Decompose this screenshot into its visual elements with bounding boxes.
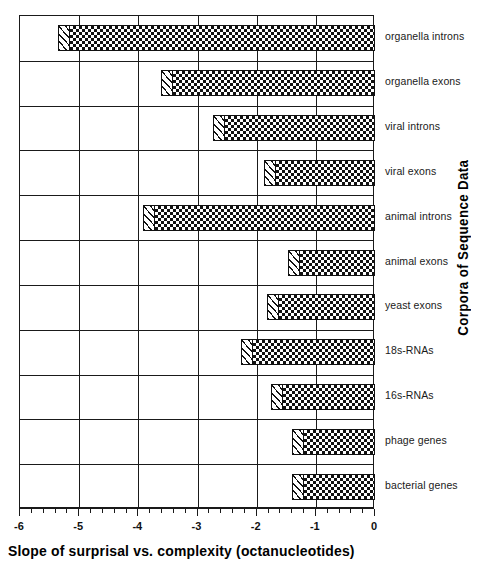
bar	[161, 70, 375, 96]
x-tick-minor	[114, 509, 115, 513]
x-tick-label: -4	[132, 520, 142, 532]
x-tick-label: -5	[73, 520, 83, 532]
y-axis-title: Corpora of Sequence Data	[455, 160, 471, 336]
x-tick-label: -1	[310, 520, 320, 532]
bar-body-segment	[225, 116, 374, 140]
bar-cap-segment	[293, 475, 304, 499]
x-tick-minor	[66, 509, 67, 513]
x-tick-label: -6	[14, 520, 24, 532]
bar-body-segment	[155, 206, 374, 230]
bar-cap-segment	[242, 340, 253, 364]
x-tick-minor	[31, 509, 32, 513]
gridline-horizontal	[20, 61, 373, 62]
category-label: organella exons	[385, 75, 461, 87]
category-label: 16s-RNAs	[385, 389, 434, 401]
x-tick-minor	[339, 509, 340, 513]
bar-cap-segment	[162, 71, 173, 95]
gridline-horizontal	[20, 464, 373, 465]
x-tick-major	[78, 509, 79, 516]
x-tick-minor	[291, 509, 292, 513]
x-tick-minor	[90, 509, 91, 513]
x-tick-major	[315, 509, 316, 516]
gridline-vertical	[79, 16, 80, 507]
bar	[288, 250, 375, 276]
bar-cap-segment	[59, 26, 70, 50]
bar-cap-segment	[289, 251, 300, 275]
x-tick-minor	[102, 509, 103, 513]
bar-body-segment	[276, 161, 374, 185]
bar-cap-segment	[293, 430, 304, 454]
x-tick-minor	[350, 509, 351, 513]
x-tick-minor	[232, 509, 233, 513]
x-tick-minor	[362, 509, 363, 513]
bar-body-segment	[304, 430, 374, 454]
category-label: animal exons	[385, 255, 448, 267]
gridline-horizontal	[20, 150, 373, 151]
x-tick-minor	[43, 509, 44, 513]
category-label: bacterial genes	[385, 479, 458, 491]
bar-body-segment	[279, 295, 374, 319]
category-label: organella introns	[385, 30, 464, 42]
x-tick-major	[19, 509, 20, 516]
bar	[271, 384, 375, 410]
x-tick-major	[374, 509, 375, 516]
gridline-horizontal	[20, 240, 373, 241]
x-axis-line	[19, 508, 374, 510]
bar-body-segment	[70, 26, 374, 50]
bar-cap-segment	[265, 161, 276, 185]
plot-area	[19, 15, 374, 508]
x-tick-minor	[220, 509, 221, 513]
bar-body-segment	[283, 385, 374, 409]
bar	[292, 474, 375, 500]
bar-body-segment	[300, 251, 374, 275]
x-tick-minor	[149, 509, 150, 513]
x-axis-title: Slope of surprisal vs. complexity (octan…	[8, 542, 355, 559]
x-tick-minor	[327, 509, 328, 513]
bar	[213, 115, 375, 141]
bar	[143, 205, 375, 231]
x-tick-minor	[244, 509, 245, 513]
bar	[264, 160, 375, 186]
gridline-horizontal	[20, 419, 373, 420]
bar-cap-segment	[214, 116, 225, 140]
x-tick-major	[137, 509, 138, 516]
bar-cap-segment	[144, 206, 155, 230]
gridline-horizontal	[20, 285, 373, 286]
x-tick-minor	[161, 509, 162, 513]
x-tick-major	[256, 509, 257, 516]
category-label: viral introns	[385, 120, 440, 132]
gridline-horizontal	[20, 195, 373, 196]
x-tick-minor	[303, 509, 304, 513]
bar-chart: Slope of surprisal vs. complexity (octan…	[0, 0, 493, 576]
x-tick-label: -2	[251, 520, 261, 532]
bar-cap-segment	[272, 385, 283, 409]
gridline-horizontal	[20, 375, 373, 376]
category-label: 18s-RNAs	[385, 344, 434, 356]
x-tick-minor	[173, 509, 174, 513]
gridline-horizontal	[20, 106, 373, 107]
category-label: viral exons	[385, 165, 436, 177]
bar	[267, 294, 375, 320]
x-tick-minor	[126, 509, 127, 513]
bar-body-segment	[304, 475, 374, 499]
category-label: phage genes	[385, 434, 447, 446]
category-label: animal introns	[385, 210, 452, 222]
gridline-horizontal	[20, 330, 373, 331]
x-tick-minor	[55, 509, 56, 513]
x-tick-major	[197, 509, 198, 516]
x-tick-minor	[208, 509, 209, 513]
x-tick-minor	[268, 509, 269, 513]
x-tick-label: 0	[371, 520, 377, 532]
bar-body-segment	[253, 340, 374, 364]
bar-body-segment	[173, 71, 374, 95]
bar	[241, 339, 375, 365]
x-tick-minor	[185, 509, 186, 513]
gridline-vertical	[138, 16, 139, 507]
x-tick-label: -3	[192, 520, 202, 532]
bar	[292, 429, 375, 455]
category-label: yeast exons	[385, 299, 442, 311]
x-tick-minor	[279, 509, 280, 513]
bar	[58, 25, 375, 51]
bar-cap-segment	[268, 295, 279, 319]
